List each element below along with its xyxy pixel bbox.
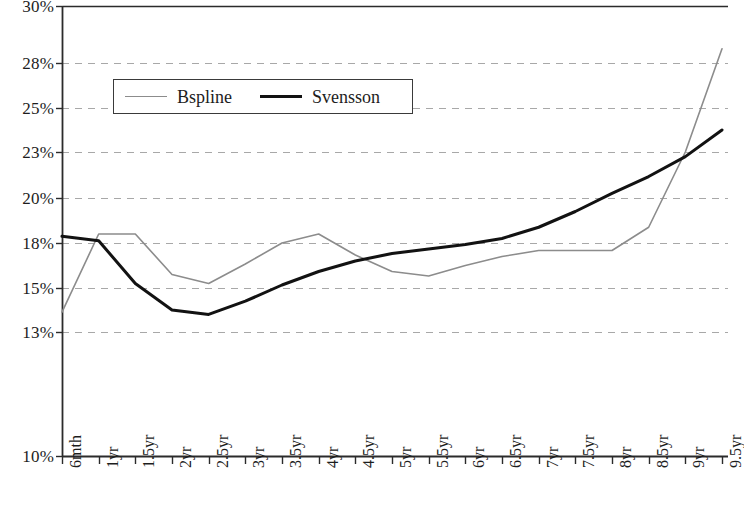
x-axis-tick-label: 3yr xyxy=(251,447,267,468)
legend-swatch-svensson-icon xyxy=(260,95,302,98)
legend-entry-svensson: Svensson xyxy=(260,80,380,113)
x-axis-tick-label: 1yr xyxy=(105,447,121,468)
x-axis-tick-label: 2.5yr xyxy=(215,435,231,468)
x-axis-tick-label: 1.5yr xyxy=(141,435,157,468)
x-axis-tick-label: 5yr xyxy=(398,447,414,468)
x-axis-tick-label: 4.5yr xyxy=(361,435,377,468)
x-axis-tick-label: 3.5yr xyxy=(288,435,304,468)
x-axis-tick-label: 9yr xyxy=(691,447,707,468)
x-axis-tick-label: 2yr xyxy=(178,447,194,468)
chart-legend: Bspline Svensson xyxy=(113,79,413,114)
x-axis-tick-label: 6.5yr xyxy=(508,435,524,468)
x-axis-tick-label: 6mth xyxy=(68,435,84,468)
x-axis-tick-label: 4yr xyxy=(325,447,341,468)
x-axis-tick-label: 7yr xyxy=(545,447,561,468)
x-axis-tick-label: 6yr xyxy=(471,447,487,468)
legend-swatch-bspline-icon xyxy=(125,96,167,97)
x-axis-tick-label: 7.5yr xyxy=(581,435,597,468)
x-axis-tick-label: 8yr xyxy=(618,447,634,468)
legend-label-bspline: Bspline xyxy=(177,88,232,106)
legend-entry-bspline: Bspline xyxy=(125,80,232,113)
x-axis-tick-label: 9.5yr xyxy=(728,435,744,468)
legend-label-svensson: Svensson xyxy=(312,88,380,106)
x-axis-tick-label: 8.5yr xyxy=(655,435,671,468)
x-axis-tick-label: 5.5yr xyxy=(435,435,451,468)
